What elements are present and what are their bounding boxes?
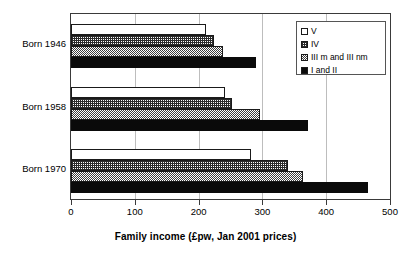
legend-swatch-i-and-ii-icon [301, 67, 308, 74]
legend-item-v: V [301, 25, 382, 37]
x-tick-400 [326, 200, 327, 205]
x-tick-500 [390, 200, 391, 205]
x-tick-200 [199, 200, 200, 205]
x-tick-100 [135, 200, 136, 205]
legend: V IV III m and III nm I and II [296, 21, 386, 75]
legend-swatch-iii-icon [301, 54, 308, 61]
x-tick-300 [262, 200, 263, 205]
bar-chart: Born 1946Born 1958Born 1970 V IV III m a… [0, 0, 411, 260]
x-tick-label-100: 100 [115, 206, 155, 217]
legend-label-iii: III m and III nm [311, 53, 368, 62]
legend-item-iii: III m and III nm [301, 51, 382, 63]
legend-label-v: V [311, 27, 317, 36]
legend-label-iv: IV [311, 40, 319, 49]
legend-item-iv: IV [301, 38, 382, 50]
x-axis-title: Family income (£pw, Jan 2001 prices) [0, 231, 411, 242]
x-tick-label-0: 0 [51, 206, 91, 217]
category-label-born-1958: Born 1958 [4, 101, 66, 112]
legend-label-i-and-ii: I and II [311, 66, 337, 75]
category-label-born-1946: Born 1946 [4, 38, 66, 49]
category-label-born-1970: Born 1970 [4, 163, 66, 174]
x-tick-label-500: 500 [370, 206, 410, 217]
legend-swatch-iv-icon [301, 41, 308, 48]
x-tick-label-300: 300 [242, 206, 282, 217]
x-tick-0 [71, 200, 72, 205]
legend-item-i-and-ii: I and II [301, 64, 382, 76]
legend-swatch-v-icon [301, 28, 308, 35]
x-axis: 0100200300400500 [70, 200, 391, 220]
x-tick-label-400: 400 [306, 206, 346, 217]
x-tick-label-200: 200 [179, 206, 219, 217]
